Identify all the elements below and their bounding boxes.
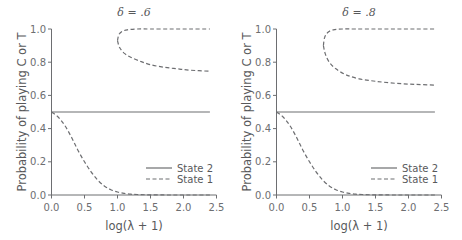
- x-tick-label: 2.0: [401, 202, 417, 213]
- y-axis: 0.0 0.2 0.4 0.6 0.8 1.0 Probability of p…: [240, 24, 277, 201]
- y-tick-label: 0.6: [255, 90, 271, 101]
- y-tick-label: 0.8: [30, 57, 46, 68]
- panel-delta-06: δ = .6 0.0 0.2 0.4 0.6 0.8 1.0 Probabili…: [15, 6, 224, 233]
- series-state-1-high-upper: [118, 29, 210, 41]
- legend: State 2 State 1: [146, 163, 213, 185]
- y-axis-title: Probability of playing C or T: [240, 31, 254, 191]
- y-axis: 0.0 0.2 0.4 0.6 0.8 1.0 Probability of p…: [15, 24, 52, 201]
- x-axis-title: log(λ + 1): [105, 219, 163, 233]
- y-tick-label: 0.4: [255, 123, 271, 134]
- x-tick-label: 2.0: [176, 202, 192, 213]
- y-tick-label: 0.2: [30, 156, 46, 167]
- series-state-1-high-lower: [118, 41, 210, 72]
- x-tick-label: 0.0: [269, 202, 285, 213]
- series-state-1-high-upper: [323, 29, 435, 46]
- x-tick-label: 1.0: [110, 202, 126, 213]
- x-tick-label: 0.5: [302, 202, 318, 213]
- x-tick-label: 0.5: [77, 202, 93, 213]
- y-axis-title: Probability of playing C or T: [15, 31, 29, 191]
- legend-label: State 1: [402, 174, 438, 185]
- legend-label: State 1: [177, 174, 213, 185]
- x-tick-label: 1.0: [335, 202, 351, 213]
- x-tick-label: 0.0: [44, 202, 60, 213]
- x-tick-label: 2.5: [434, 202, 450, 213]
- y-tick-label: 0.0: [30, 190, 46, 201]
- y-tick-label: 0.6: [30, 90, 46, 101]
- y-tick-label: 0.4: [30, 123, 46, 134]
- figure: δ = .6 0.0 0.2 0.4 0.6 0.8 1.0 Probabili…: [0, 0, 462, 240]
- y-tick-label: 1.0: [30, 24, 46, 35]
- legend-label: State 2: [402, 163, 438, 174]
- panel-title: δ = .8: [342, 6, 375, 19]
- x-axis: 0.0 0.5 1.0 1.5 2.0 2.5 log(λ + 1): [44, 195, 225, 233]
- x-tick-label: 1.5: [368, 202, 384, 213]
- x-axis-title: log(λ + 1): [330, 219, 388, 233]
- y-tick-label: 1.0: [255, 24, 271, 35]
- panel-title: δ = .6: [117, 6, 150, 19]
- panel-delta-08: δ = .8 0.0 0.2 0.4 0.6 0.8 1.0 Probabili…: [240, 6, 449, 233]
- legend: State 2 State 1: [371, 163, 438, 185]
- x-tick-label: 1.5: [143, 202, 159, 213]
- y-tick-label: 0.8: [255, 57, 271, 68]
- y-tick-label: 0.0: [255, 190, 271, 201]
- x-axis: 0.0 0.5 1.0 1.5 2.0 2.5 log(λ + 1): [269, 195, 450, 233]
- legend-label: State 2: [177, 163, 213, 174]
- series-state-1-high-lower: [323, 46, 435, 86]
- x-tick-label: 2.5: [209, 202, 225, 213]
- y-tick-label: 0.2: [255, 156, 271, 167]
